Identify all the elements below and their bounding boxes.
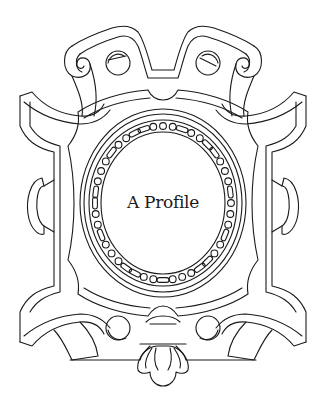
top-crest [65,26,262,116]
frame-title: A Profile [93,191,233,213]
right-wing [216,92,306,346]
bottom-crest [54,316,272,386]
left-wing [20,92,110,346]
